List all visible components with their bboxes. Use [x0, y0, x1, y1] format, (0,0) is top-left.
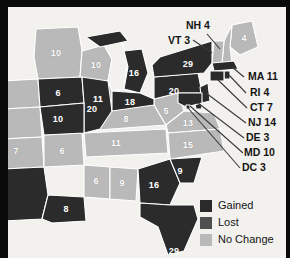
legend-item-lost: Lost [200, 214, 284, 231]
state-AR [44, 133, 84, 167]
state-TX [8, 167, 48, 221]
state-MO [40, 103, 84, 135]
state-AL [110, 167, 138, 201]
state-MS [84, 165, 110, 199]
legend-label-lost: Lost [218, 217, 239, 228]
map-canvas: .g{fill:#2b2b2b} /* gained */ .l{fill:#4… [8, 7, 286, 258]
callout-MD: MD 10 [244, 147, 275, 158]
legend-label-gained: Gained [218, 200, 253, 211]
callout-VT: VT 3 [168, 35, 190, 46]
callout-MA: MA 11 [248, 71, 278, 82]
state-plains-upper [8, 79, 40, 109]
state-plains-lower [8, 107, 42, 139]
callout-NH: NH 4 [186, 20, 210, 31]
legend-swatch-gained [200, 200, 212, 212]
figure-frame: .g{fill:#2b2b2b} /* gained */ .l{fill:#4… [0, 0, 290, 258]
state-LA [42, 195, 86, 223]
callout-DC: DC 3 [242, 162, 266, 173]
map-legend: Gained Lost No Change [200, 197, 284, 248]
legend-item-no-change: No Change [200, 231, 284, 248]
legend-item-gained: Gained [200, 197, 284, 214]
legend-swatch-lost [200, 217, 212, 229]
callout-DE: DE 3 [246, 132, 269, 143]
state-MA [212, 61, 238, 71]
legend-swatch-no-change [200, 234, 212, 246]
state-TN [84, 129, 168, 157]
legend-label-no-change: No Change [218, 234, 274, 245]
callout-RI: RI 4 [250, 87, 269, 98]
map-figure: .g{fill:#2b2b2b} /* gained */ .l{fill:#4… [8, 7, 286, 258]
state-MN [34, 27, 82, 79]
state-VT [212, 41, 224, 63]
callout-NJ: NJ 14 [248, 117, 276, 128]
callout-CT: CT 7 [250, 102, 273, 113]
state-OK [8, 137, 44, 169]
state-IA [38, 77, 84, 107]
